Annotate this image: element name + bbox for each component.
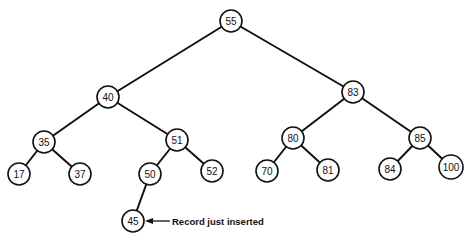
tree-node-85: 85 xyxy=(409,127,431,149)
node-label: 17 xyxy=(13,169,25,180)
tree-node-52: 52 xyxy=(201,160,223,182)
node-label: 83 xyxy=(347,87,359,98)
node-label: 84 xyxy=(384,164,396,175)
edge-83-85 xyxy=(353,92,420,138)
tree-node-17: 17 xyxy=(8,163,30,185)
tree-node-35: 35 xyxy=(33,131,55,153)
node-label: 35 xyxy=(38,137,50,148)
tree-edges xyxy=(19,21,451,221)
tree-node-80: 80 xyxy=(282,127,304,149)
node-label: 70 xyxy=(261,166,273,177)
tree-node-37: 37 xyxy=(69,163,91,185)
tree-node-100: 100 xyxy=(439,155,463,179)
arrow-left-icon xyxy=(145,218,153,224)
node-label: 85 xyxy=(414,133,426,144)
edge-55-83 xyxy=(231,21,353,92)
tree-node-81: 81 xyxy=(317,159,339,181)
node-label: 100 xyxy=(443,162,460,173)
node-label: 55 xyxy=(225,16,237,27)
edge-40-51 xyxy=(108,97,177,140)
node-label: 51 xyxy=(171,135,183,146)
node-label: 40 xyxy=(102,92,114,103)
tree-node-70: 70 xyxy=(256,160,278,182)
tree-node-55: 55 xyxy=(220,10,242,32)
node-label: 37 xyxy=(74,169,86,180)
annotation-label: Record just inserted xyxy=(172,216,264,227)
tree-node-83: 83 xyxy=(342,81,364,103)
tree-node-50: 50 xyxy=(139,163,161,185)
node-label: 50 xyxy=(144,169,156,180)
tree-node-84: 84 xyxy=(379,158,401,180)
tree-node-45: 45 xyxy=(122,210,144,232)
node-label: 80 xyxy=(287,133,299,144)
tree-diagram: 554083355180851737505270818410045 Record… xyxy=(0,0,469,246)
node-label: 81 xyxy=(322,165,334,176)
node-label: 52 xyxy=(206,166,218,177)
node-label: 45 xyxy=(127,216,139,227)
tree-node-40: 40 xyxy=(97,86,119,108)
insert-annotation: Record just inserted xyxy=(145,216,264,227)
tree-node-51: 51 xyxy=(166,129,188,151)
edge-55-40 xyxy=(108,21,231,97)
